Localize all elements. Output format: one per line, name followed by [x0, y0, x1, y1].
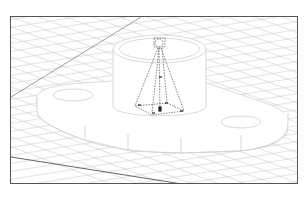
bolt-hole-right	[221, 116, 261, 128]
bolt-hole-left	[53, 89, 93, 101]
cad-viewport[interactable]	[10, 16, 298, 184]
scene-canvas[interactable]	[11, 17, 298, 184]
